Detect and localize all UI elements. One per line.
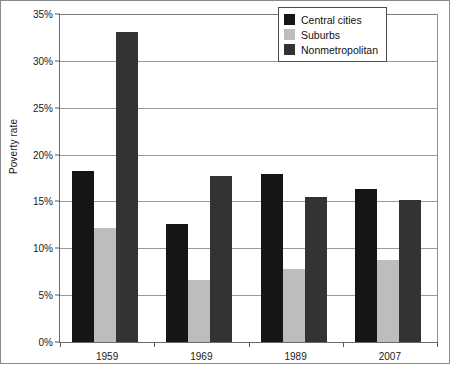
legend-swatch-icon bbox=[284, 14, 295, 25]
y-axis-tick-label: 15% bbox=[33, 196, 53, 207]
y-axis-tick-label: 20% bbox=[33, 149, 53, 160]
bar-2007-nonmetropolitan bbox=[399, 200, 421, 342]
y-tick-mark bbox=[55, 14, 60, 15]
x-tick-mark bbox=[343, 342, 344, 347]
chart-frame: Poverty rate 0%5%10%15%20%25%30%35% 1959… bbox=[0, 0, 450, 364]
bar-1969-central-cities bbox=[166, 224, 188, 342]
y-tick-mark bbox=[55, 201, 60, 202]
bar-1989-suburbs bbox=[283, 269, 305, 342]
legend-item-label: Central cities bbox=[301, 14, 362, 26]
y-axis-tick-label: 25% bbox=[33, 102, 53, 113]
y-axis-tick-label: 35% bbox=[33, 9, 53, 20]
y-tick-mark bbox=[55, 295, 60, 296]
y-tick-mark bbox=[55, 248, 60, 249]
y-tick-mark bbox=[55, 107, 60, 108]
x-axis-tick-label: 1959 bbox=[96, 351, 118, 362]
legend-item-central-cities[interactable]: Central cities bbox=[284, 12, 378, 27]
legend-item-label: Suburbs bbox=[301, 29, 340, 41]
legend-item-nonmetropolitan[interactable]: Nonmetropolitan bbox=[284, 42, 378, 57]
x-tick-mark bbox=[437, 342, 438, 347]
x-axis-tick-label: 1989 bbox=[285, 351, 307, 362]
bar-1959-central-cities bbox=[72, 171, 94, 342]
y-axis-tick-label: 30% bbox=[33, 55, 53, 66]
y-axis-tick-label: 10% bbox=[33, 243, 53, 254]
bar-1959-nonmetropolitan bbox=[116, 32, 138, 342]
legend-item-label: Nonmetropolitan bbox=[301, 44, 378, 56]
x-tick-mark bbox=[60, 342, 61, 347]
bar-1959-suburbs bbox=[94, 228, 116, 342]
y-tick-mark bbox=[55, 60, 60, 61]
bar-1989-nonmetropolitan bbox=[305, 197, 327, 342]
bar-1969-nonmetropolitan bbox=[210, 176, 232, 342]
legend-item-suburbs[interactable]: Suburbs bbox=[284, 27, 378, 42]
plot-area: 0%5%10%15%20%25%30%35% 1959196919892007 bbox=[59, 14, 438, 343]
y-tick-mark bbox=[55, 154, 60, 155]
x-axis-tick-label: 2007 bbox=[379, 351, 401, 362]
chart-legend: Central citiesSuburbsNonmetropolitan bbox=[278, 7, 387, 62]
bar-1969-suburbs bbox=[188, 280, 210, 342]
bar-1989-central-cities bbox=[261, 174, 283, 342]
bar-2007-central-cities bbox=[355, 189, 377, 342]
x-axis-tick-label: 1969 bbox=[190, 351, 212, 362]
legend-swatch-icon bbox=[284, 29, 295, 40]
legend-swatch-icon bbox=[284, 44, 295, 55]
y-axis-title: Poverty rate bbox=[8, 102, 19, 192]
x-tick-mark bbox=[249, 342, 250, 347]
y-axis-tick-label: 5% bbox=[39, 290, 53, 301]
bar-2007-suburbs bbox=[377, 260, 399, 342]
y-axis-tick-label: 0% bbox=[39, 337, 53, 348]
x-tick-mark bbox=[154, 342, 155, 347]
